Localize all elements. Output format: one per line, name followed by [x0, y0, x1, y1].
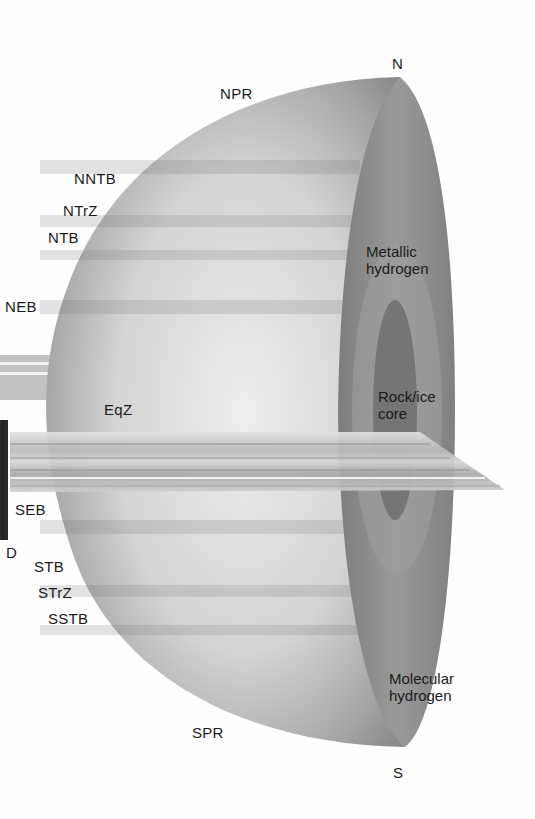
- label-rock-ice-core: Rock/ice core: [378, 388, 436, 422]
- planet-cutaway-illustration: [0, 0, 535, 819]
- label-npr: NPR: [220, 85, 253, 102]
- label-sstb: SSTB: [48, 610, 88, 627]
- label-ntrz: NTrZ: [63, 202, 98, 219]
- label-nntb: NNTB: [74, 170, 116, 187]
- label-seb: SEB: [15, 501, 46, 518]
- label-south-pole: S: [393, 764, 403, 781]
- label-north-pole: N: [392, 55, 403, 72]
- label-molecular-hydrogen: Molecular hydrogen: [389, 670, 454, 704]
- label-stb: STB: [34, 558, 64, 575]
- label-strz: STrZ: [38, 584, 72, 601]
- label-metallic-hydrogen: Metallic hydrogen: [366, 243, 429, 277]
- label-ntb: NTB: [48, 229, 79, 246]
- label-d: D: [6, 544, 17, 561]
- ring-plane: [10, 432, 505, 492]
- label-neb: NEB: [5, 298, 37, 315]
- label-spr: SPR: [192, 724, 224, 741]
- label-eqz: EqZ: [104, 401, 132, 418]
